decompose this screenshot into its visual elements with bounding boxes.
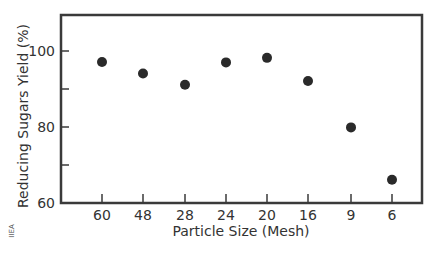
x-tick-label: 9 <box>347 207 356 223</box>
x-tick-label: 28 <box>176 207 194 223</box>
data-point <box>262 53 272 63</box>
x-tick-label: 20 <box>258 207 276 223</box>
x-tick-label: 24 <box>217 207 235 223</box>
x-axis-tick-labels: 60482824201696 <box>93 207 396 223</box>
y-tick-label: 60 <box>37 195 55 211</box>
y-tick-label: 100 <box>28 43 55 59</box>
data-point <box>303 76 313 86</box>
x-tick-label: 16 <box>299 207 317 223</box>
data-point <box>138 68 148 78</box>
x-tick-label: 48 <box>134 207 152 223</box>
y-tick-label: 80 <box>37 119 55 135</box>
x-axis-title: Particle Size (Mesh) <box>172 223 309 239</box>
data-points <box>97 53 397 185</box>
scatter-chart: 6080100 60482824201696 Particle Size (Me… <box>0 0 438 254</box>
data-point <box>221 57 231 67</box>
data-point <box>97 57 107 67</box>
data-point <box>180 80 190 90</box>
data-point <box>387 175 397 185</box>
x-axis-ticks <box>102 194 392 203</box>
x-tick-label: 6 <box>388 207 397 223</box>
credit-label: IIEA <box>8 224 16 238</box>
y-axis-tick-labels: 6080100 <box>28 43 55 211</box>
x-tick-label: 60 <box>93 207 111 223</box>
plot-frame <box>61 15 422 203</box>
data-point <box>346 122 356 132</box>
y-axis-title: Reducing Sugars Yield (%) <box>15 24 31 208</box>
